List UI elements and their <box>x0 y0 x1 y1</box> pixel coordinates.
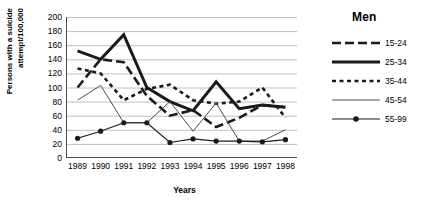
y-tick-label: 40 <box>38 126 62 134</box>
y-tick-label: 120 <box>38 69 62 77</box>
y-tick-label: 200 <box>38 13 62 21</box>
legend-swatch-icon <box>330 36 382 50</box>
y-tick-label: 60 <box>38 112 62 120</box>
series-marker-55-99 <box>237 138 242 143</box>
series-marker-55-99 <box>167 140 172 145</box>
series-marker-55-99 <box>121 120 126 125</box>
plot-svg <box>66 17 297 158</box>
legend-item-45-54[interactable]: 45-54 <box>330 93 435 107</box>
x-tick-label: 1998 <box>270 162 300 171</box>
y-tick-label: 80 <box>38 98 62 106</box>
y-axis-tick-labels: 200180160140120100806040200 <box>36 0 62 208</box>
legend-item-15-24[interactable]: 15-24 <box>330 36 435 50</box>
x-axis-title: Years <box>72 185 297 195</box>
y-tick-label: 180 <box>38 27 62 35</box>
y-axis-title-line-2: attempt/100,000 <box>17 8 25 68</box>
legend-item-35-44[interactable]: 35-44 <box>330 74 435 88</box>
legend: Men 15-2425-3435-4445-5455-99 <box>330 10 435 140</box>
series-marker-55-99 <box>260 139 265 144</box>
legend-key-marker-circle <box>353 116 359 122</box>
legend-item-label: 35-44 <box>385 76 407 86</box>
legend-line-icon <box>330 36 382 50</box>
legend-item-label: 25-34 <box>385 57 407 67</box>
series-marker-55-99 <box>283 137 288 142</box>
legend-title: Men <box>352 10 377 24</box>
legend-swatch-icon <box>330 74 382 88</box>
legend-item-label: 45-54 <box>385 95 407 105</box>
legend-line-icon <box>330 93 382 107</box>
legend-line-icon <box>330 55 382 69</box>
legend-line-icon <box>330 74 382 88</box>
y-tick-label: 100 <box>38 84 62 92</box>
legend-swatch-icon <box>330 112 382 126</box>
y-tick-label: 20 <box>38 140 62 148</box>
series-marker-55-99 <box>75 136 80 141</box>
y-tick-label: 0 <box>38 154 62 162</box>
chart-figure: Persons with a suicide attempt/100,000 2… <box>0 0 437 208</box>
series-marker-55-99 <box>144 120 149 125</box>
legend-item-25-34[interactable]: 25-34 <box>330 55 435 69</box>
series-marker-55-99 <box>98 129 103 134</box>
series-marker-55-99 <box>190 136 195 141</box>
y-axis-title-line-1: Persons with a suicide <box>6 8 14 94</box>
legend-item-label: 15-24 <box>385 38 407 48</box>
y-tick-label: 160 <box>38 41 62 49</box>
legend-swatch-icon <box>330 55 382 69</box>
legend-line-icon <box>330 112 382 126</box>
legend-swatch-icon <box>330 93 382 107</box>
plot-area <box>66 17 297 158</box>
legend-item-55-99[interactable]: 55-99 <box>330 112 435 126</box>
y-tick-label: 140 <box>38 55 62 63</box>
legend-item-label: 55-99 <box>385 114 407 124</box>
series-line-55-99 <box>78 123 286 143</box>
y-axis-title: Persons with a suicide attempt/100,000 <box>2 8 36 158</box>
series-marker-55-99 <box>214 138 219 143</box>
